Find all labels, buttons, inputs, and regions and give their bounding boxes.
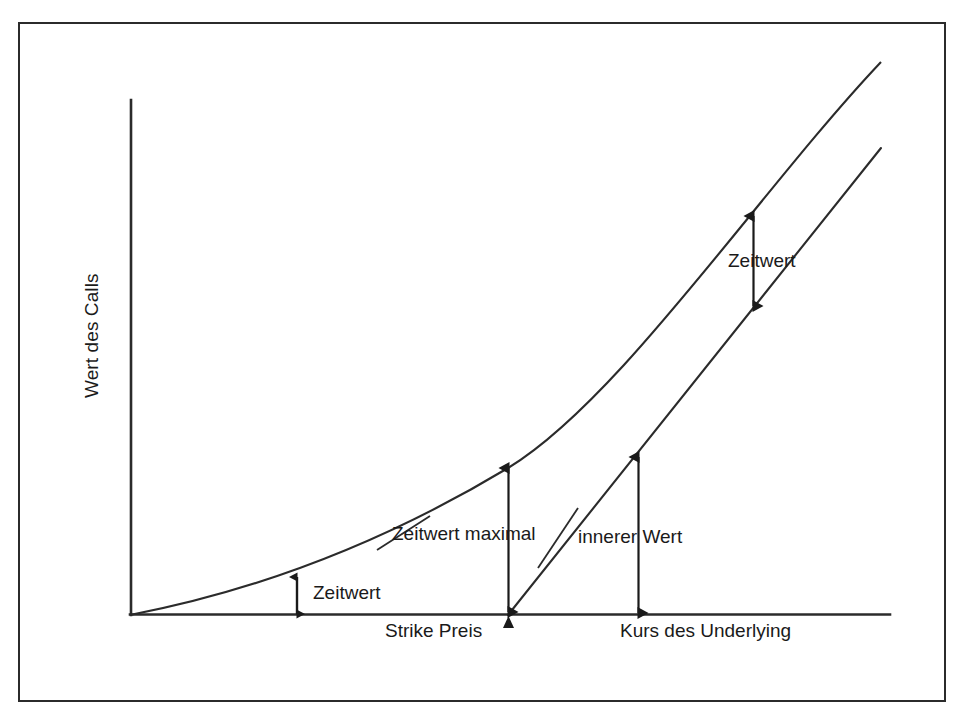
annotation-zeitwert-maximal: Zeitwert maximal (392, 524, 536, 543)
annotation-zeitwert-right: Zeitwert (728, 251, 796, 270)
intrinsic-value-line (508, 148, 881, 615)
strike-preis-pointer-icon (503, 616, 514, 628)
figure-page: Wert des Calls Zeitwert Zeitwert maximal… (0, 0, 963, 721)
annotation-zeitwert-left: Zeitwert (313, 583, 381, 602)
call-option-value-diagram (0, 0, 963, 721)
y-axis-label-text: Wert des Calls (82, 273, 101, 398)
x-axis-label-strike-preis: Strike Preis (385, 621, 482, 640)
x-axis-label-kurs-des-underlying: Kurs des Underlying (620, 621, 791, 640)
annotation-innerer-wert: innerer Wert (578, 527, 682, 546)
innerer-wert-leader (538, 508, 578, 568)
